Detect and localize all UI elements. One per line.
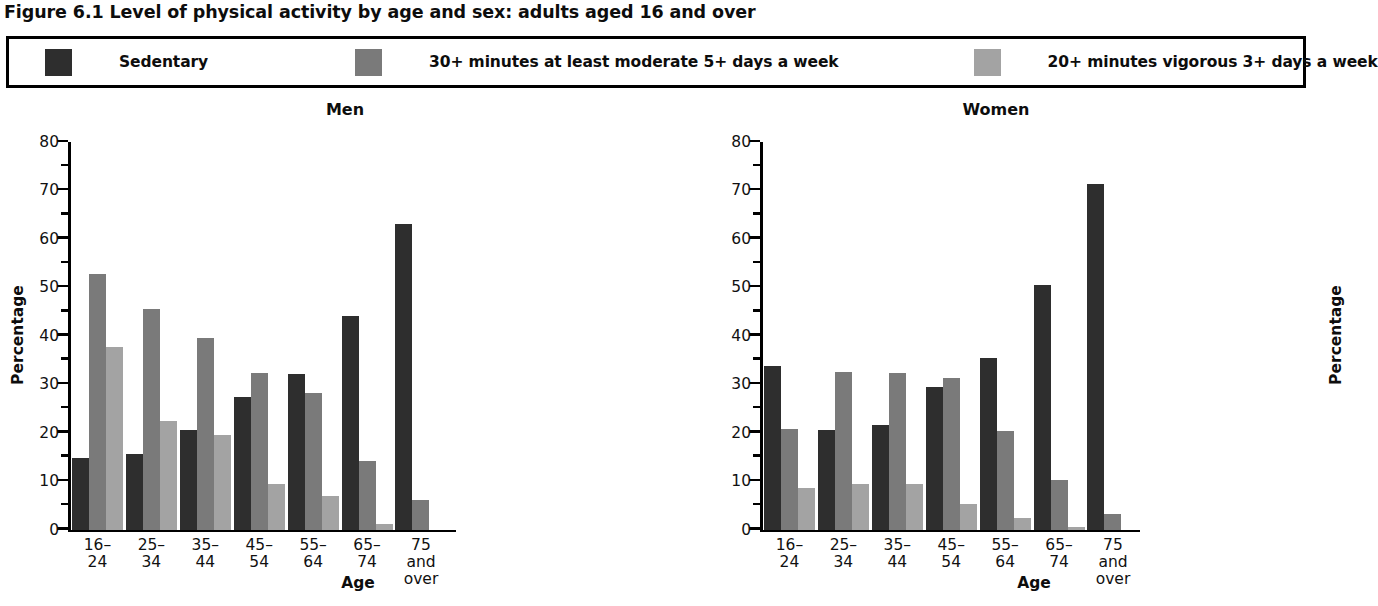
bar [180,430,197,529]
y-axis-tick-label: 10 [731,472,751,490]
x-axis-category-label: 25–34 [830,537,857,571]
y-axis-tick-label: 20 [39,424,59,442]
y-axis-tick-minor [61,309,68,312]
legend-item: Sedentary [45,49,208,76]
legend-item-label: 30+ minutes at least moderate 5+ days a … [429,53,839,71]
bar-group: 35–44 [870,142,924,530]
bar [1034,285,1051,529]
bar-group: 65–74 [1032,142,1086,530]
x-axis-category-label: 35–44 [884,537,911,571]
y-axis-tick-label: 80 [731,133,751,151]
bar-group: 25–34 [816,142,870,530]
bar-group: 75 and over [394,142,448,530]
y-axis-tick-label: 40 [39,327,59,345]
bar [1051,480,1068,529]
legend-swatch-icon [974,49,1001,76]
y-axis-tick-label: 60 [39,230,59,248]
bar [288,374,305,530]
bar [322,496,339,530]
y-axis-tick-minor [61,454,68,457]
bar [906,484,923,530]
bar [798,488,815,530]
bar-groups-men: 16–2425–3435–4445–5455–6465–7475 and ove… [71,142,449,530]
y-axis-tick-minor [61,164,68,167]
bar [1068,527,1085,529]
y-axis-tick-minor [753,357,760,360]
y-axis-tick-minor [753,454,760,457]
y-axis-tick-minor [61,261,68,264]
bar [781,429,798,529]
bar [1087,184,1104,530]
legend-swatch-icon [45,49,72,76]
y-axis-label-women: Percentage [1327,255,1345,415]
legend-item-label: 20+ minutes vigorous 3+ days a week [1048,53,1378,71]
x-axis-category-label: 16–24 [776,537,803,571]
x-axis-category-label: 55–64 [299,537,326,571]
x-axis-category-label: 65–74 [1045,537,1072,571]
y-axis-tick-label: 70 [39,181,59,199]
bar [872,425,889,529]
bar-group: 75 and over [1086,142,1140,530]
x-axis-category-label: 45–54 [245,537,272,571]
y-axis-tick-label: 10 [39,472,59,490]
x-axis-category-label: 45–54 [937,537,964,571]
legend-item: 30+ minutes at least moderate 5+ days a … [355,49,839,76]
chart-title-men: Men [0,100,660,119]
bar [305,393,322,530]
bar [412,500,429,529]
bar [342,316,359,530]
bar-group: 55–64 [978,142,1032,530]
x-axis-line-women [760,530,1140,533]
chart-panel-women: Women Percentage 01020304050607080 16–24… [660,96,1320,606]
legend-item: 20+ minutes vigorous 3+ days a week [974,49,1378,76]
bar [980,358,997,529]
x-axis-category-label: 35–44 [192,537,219,571]
x-axis-category-label: 65–74 [353,537,380,571]
y-axis-tick-label: 60 [731,230,751,248]
bar [72,458,89,530]
plot-area-women: 01020304050607080 16–2425–3435–4445–5455… [760,142,1140,532]
chart-panel-men: Men Percentage 01020304050607080 16–2425… [0,96,660,606]
y-axis-tick-minor [753,309,760,312]
x-axis-line-men [68,530,456,533]
legend: Sedentary30+ minutes at least moderate 5… [6,36,1306,88]
x-axis-category-label: 16–24 [84,537,111,571]
bar-group: 25–34 [124,142,178,530]
x-axis-label-men: Age [0,574,660,592]
x-axis-category-label: 55–64 [991,537,1018,571]
y-axis-tick-minor [61,406,68,409]
bar-group: 45–54 [924,142,978,530]
bar [268,484,285,529]
bar [160,421,177,530]
bar [214,435,231,529]
bar [376,524,393,530]
y-axis-tick-minor [753,261,760,264]
bar [126,454,143,530]
bar [997,431,1014,530]
x-axis-category-label: 25–34 [138,537,165,571]
bar-group: 16–24 [763,142,817,530]
y-axis-tick-minor [753,212,760,215]
x-axis-label-women: Age [660,574,1320,592]
y-axis-tick-label: 30 [731,375,751,393]
bar [889,373,906,530]
bar [926,387,943,529]
bar [251,373,268,529]
y-axis-tick-label: 30 [39,375,59,393]
y-axis-tick-minor [753,406,760,409]
bar-group: 16–24 [71,142,125,530]
bar [1014,518,1031,529]
y-axis-tick-minor [753,503,760,506]
bar [960,504,977,530]
y-axis-tick-minor [753,164,760,167]
bar [143,309,160,530]
bar-groups-women: 16–2425–3435–4445–5455–6465–7475 and ove… [763,142,1141,530]
plot-area-men: 01020304050607080 16–2425–3435–4445–5455… [68,142,448,532]
y-axis-tick-label: 80 [39,133,59,151]
y-axis-tick-label: 40 [731,327,751,345]
y-axis-tick-label: 0 [49,521,59,539]
bar [395,224,412,530]
y-axis-tick-label: 70 [731,181,751,199]
legend-swatch-icon [355,49,382,76]
legend-item-label: Sedentary [119,53,208,71]
